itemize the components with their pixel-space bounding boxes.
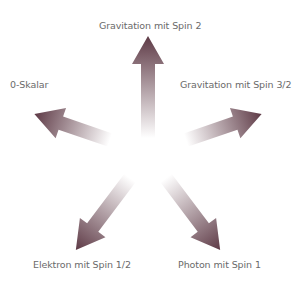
- arrow-right-icon: [181, 99, 267, 155]
- spin-diagram: Gravitation mit Spin 2 0-Skalar Gravitat…: [0, 0, 297, 284]
- arrow-bottom-left-icon: [63, 168, 143, 259]
- arrow-up-icon: [132, 36, 164, 138]
- label-gravitation-spin-3-2: Gravitation mit Spin 3/2: [180, 79, 291, 90]
- label-elektron-spin-1-2: Elektron mit Spin 1/2: [33, 259, 131, 270]
- arrows-layer: [0, 0, 297, 284]
- arrow-left-icon: [29, 99, 115, 155]
- label-0-skalar: 0-Skalar: [10, 79, 48, 90]
- label-photon-spin-1: Photon mit Spin 1: [178, 259, 261, 270]
- arrow-bottom-right-icon: [153, 168, 233, 259]
- label-gravitation-spin-2: Gravitation mit Spin 2: [99, 20, 201, 31]
